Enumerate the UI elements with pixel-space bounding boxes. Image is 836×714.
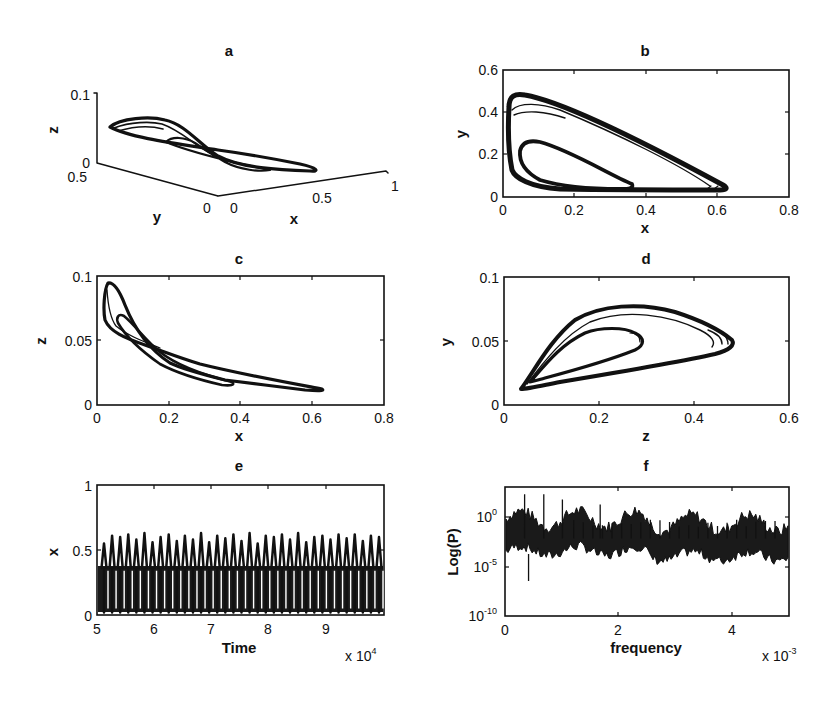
y-axis-label: Log(P) [444, 528, 461, 575]
x-tick-0: 0 [230, 200, 238, 216]
x-tick: 0.4 [636, 202, 656, 218]
y-tick: 0.1 [480, 270, 500, 286]
x-tick: 7 [207, 621, 215, 637]
y-axis-label: y [437, 337, 454, 346]
x-tick: 0 [93, 410, 101, 426]
attractor-yz-curve [521, 306, 733, 389]
y-tick: 0.05 [65, 333, 92, 349]
y-tick: 0.05 [472, 334, 499, 350]
figure-canvas: a 0.1 0 z 0.5 0 y 0 0.5 1 x b 0.6 [0, 0, 836, 714]
attractor-xz-curve [104, 283, 323, 391]
panel-b-title: b [640, 42, 649, 59]
x-multiplier: x 104 [345, 646, 376, 664]
x-axis-label: z [642, 427, 650, 444]
panel-c: c 0.1 0.05 0 0 0.2 0.4 0.6 0.8 x z [32, 250, 394, 444]
x-tick: 9 [322, 621, 330, 637]
panel-b: b 0.6 0.4 0.2 0 0 0.2 0.4 0.6 0.8 x y [452, 42, 799, 236]
y-axis-label: y [452, 129, 469, 138]
x-tick: 0.6 [779, 410, 799, 426]
x-axis-line [218, 171, 388, 196]
y-axis-label: x [44, 547, 61, 556]
y-tick: 0 [84, 397, 92, 413]
x-tick: 0.8 [779, 202, 799, 218]
x-tick: 0.8 [374, 410, 394, 426]
x-tick: 0 [500, 410, 508, 426]
x-multiplier: x 10-3 [762, 646, 796, 664]
x-tick: 0 [499, 202, 507, 218]
x-axis-label: Time [222, 639, 257, 656]
y-tick-10e-5: 10-5 [473, 557, 497, 575]
x-tick: 4 [728, 622, 736, 638]
z-axis-line [94, 93, 97, 163]
x-tick: 0 [501, 622, 509, 638]
x-axis-label: x [641, 219, 650, 236]
y-tick-0.5: 0.5 [68, 169, 88, 185]
power-spectrum [506, 494, 788, 581]
y-axis-label: y [153, 208, 162, 225]
y-tick: 0.1 [73, 269, 93, 285]
y-axis-label: z [32, 337, 49, 345]
panel-a: a 0.1 0 z 0.5 0 y 0 0.5 1 x [44, 42, 399, 227]
panel-e-title: e [235, 457, 243, 474]
y-tick: 0 [491, 397, 499, 413]
y-tick-10e0: 100 [476, 507, 497, 525]
x-axis-label: x [235, 427, 244, 444]
y-tick: 0 [490, 189, 498, 205]
x-tick: 6 [150, 621, 158, 637]
x-tick: 0.6 [707, 202, 727, 218]
y-tick-10e-10: 10-10 [468, 606, 497, 624]
y-tick: 0.4 [479, 104, 499, 120]
z-axis-label: z [44, 126, 61, 134]
y-tick: 0.6 [479, 62, 499, 78]
z-tick-0.1: 0.1 [71, 87, 91, 103]
y-tick: 1 [84, 478, 92, 494]
time-series-band [98, 533, 383, 612]
x-tick: 8 [264, 621, 272, 637]
x-tick: 0.2 [589, 410, 609, 426]
attractor-3d-curve [110, 118, 316, 171]
x-axis-label: frequency [610, 639, 682, 656]
panel-b-frame [503, 70, 789, 197]
x-tick: 0.6 [302, 410, 322, 426]
x-tick-1: 1 [391, 178, 399, 194]
panel-b-ticks [503, 70, 789, 197]
attractor-xy-curve [508, 94, 726, 190]
x-tick: 2 [614, 622, 622, 638]
y-axis-line [97, 163, 218, 196]
panel-f: f 100 10-5 10-10 0 2 4 frequency Log(P) … [444, 457, 796, 664]
panel-e: e 1 0.5 0 5 6 7 8 9 Time x x 104 [44, 457, 384, 664]
x-tick: 0.2 [159, 410, 179, 426]
panel-d-title: d [641, 250, 650, 267]
x-tick: 0.4 [684, 410, 704, 426]
x-tick: 0.2 [564, 202, 584, 218]
y-tick-0: 0 [203, 200, 211, 216]
panel-c-title: c [235, 250, 243, 267]
panel-f-title: f [644, 457, 650, 474]
y-tick: 0.5 [73, 543, 93, 559]
x-axis-label: x [290, 210, 299, 227]
x-tick-0.5: 0.5 [312, 190, 332, 206]
x-tick: 0.4 [230, 410, 250, 426]
y-tick: 0 [84, 608, 92, 624]
panel-a-title: a [225, 42, 234, 59]
x-tick: 5 [93, 621, 101, 637]
y-tick: 0.2 [479, 146, 499, 162]
panel-d: d 0.1 0.05 0 0 0.2 0.4 0.6 z y [437, 250, 799, 444]
